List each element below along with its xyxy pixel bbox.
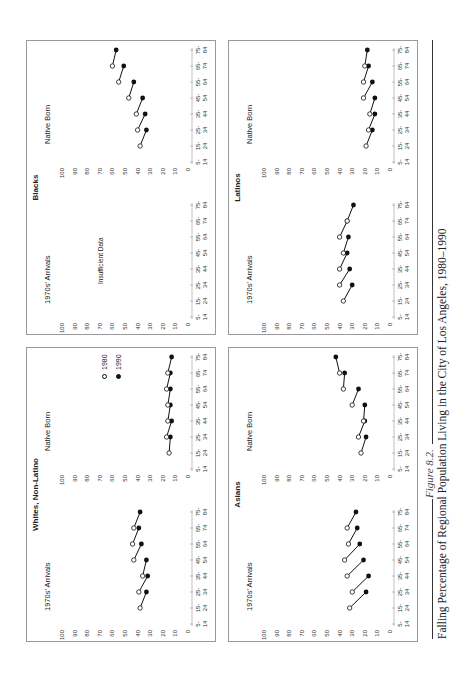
x-tick-label: 34	[404, 281, 410, 288]
y-tick-label: 40	[135, 167, 141, 174]
x-tick-label: 54	[202, 556, 208, 563]
native-born-plot: 01020304050607080901005-1415-2425-3435-4…	[261, 46, 410, 178]
x-tick-label: 64	[404, 540, 410, 547]
point-1980	[127, 96, 131, 100]
x-tick-label: 35-	[195, 572, 201, 581]
y-tick-label: 70	[299, 322, 305, 329]
x-tick-label: 34	[404, 433, 410, 440]
x-tick-label: 64	[202, 233, 208, 240]
point-1990	[347, 267, 352, 272]
y-tick-label: 50	[324, 629, 330, 636]
point-1990	[144, 128, 149, 133]
y-tick-label: 30	[349, 167, 355, 174]
x-tick-label: 55-	[195, 78, 201, 87]
x-tick-label: 45-	[397, 401, 403, 410]
y-tick-label: 0	[387, 474, 393, 478]
point-1990	[361, 558, 366, 563]
x-tick-label: 75-	[195, 353, 201, 362]
y-tick-label: 10	[172, 474, 178, 481]
point-1980	[164, 387, 168, 391]
y-tick-label: 30	[147, 167, 153, 174]
panel-asians: Asians 1970s' Arrivals Native Born 01020…	[228, 347, 418, 642]
x-tick-label: 75-	[195, 201, 201, 210]
point-1980	[134, 112, 138, 116]
legend-label: 1990	[115, 354, 122, 370]
y-tick-label: 70	[299, 167, 305, 174]
arrivals-plot: 01020304050607080901005-1415-2425-3435-4…	[261, 201, 410, 333]
x-tick-label: 84	[404, 201, 410, 208]
x-tick-label: 44	[202, 265, 208, 272]
x-tick-label: 35-	[397, 110, 403, 119]
x-tick-label: 35-	[195, 265, 201, 274]
cohort-line	[340, 269, 350, 285]
panel-latinos: Latinos 1970s' Arrivals Native Born 0102…	[228, 40, 418, 335]
native-born-plot: 01020304050607080901005-1415-2425-3435-4…	[59, 353, 208, 485]
x-tick-label: 34	[404, 588, 410, 595]
y-tick-label: 40	[135, 629, 141, 636]
x-tick-label: 15-	[195, 449, 201, 458]
point-1990	[114, 48, 119, 53]
y-tick-label: 80	[84, 167, 90, 174]
y-tick-label: 50	[324, 474, 330, 481]
y-tick-label: 100	[261, 629, 267, 640]
point-1990	[355, 526, 360, 531]
x-tick-label: 5-	[397, 159, 403, 164]
point-1990	[136, 526, 141, 531]
x-tick-label: 74	[202, 217, 208, 224]
x-tick-label: 55-	[195, 385, 201, 394]
panel-whites: Whites, Non-Latino 1970s' Arrivals Nativ…	[26, 347, 216, 642]
point-1980	[167, 451, 171, 455]
y-tick-label: 0	[185, 322, 191, 326]
x-tick-label: 15-	[195, 297, 201, 306]
legend-item-1990: 1990	[111, 354, 125, 379]
y-tick-label: 0	[185, 167, 191, 171]
x-tick-label: 5-	[397, 466, 403, 471]
x-tick-label: 65-	[397, 369, 403, 378]
y-tick-label: 100	[59, 322, 65, 333]
x-tick-label: 14	[404, 620, 410, 627]
x-tick-label: 54	[202, 401, 208, 408]
point-1990	[145, 574, 150, 579]
x-tick-label: 24	[202, 297, 208, 304]
x-tick-label: 24	[404, 449, 410, 456]
chart-asians: 01020304050607080901005-1415-2425-3435-4…	[229, 348, 417, 641]
x-tick-label: 34	[202, 281, 208, 288]
y-tick-label: 90	[274, 629, 280, 636]
legend: 1980 1990	[97, 354, 125, 379]
y-tick-label: 0	[387, 167, 393, 171]
cohort-line	[348, 528, 357, 544]
x-tick-label: 14	[202, 313, 208, 320]
x-tick-label: 84	[202, 353, 208, 360]
y-tick-label: 30	[147, 474, 153, 481]
y-tick-label: 10	[374, 474, 380, 481]
y-tick-label: 50	[122, 322, 128, 329]
point-1990	[131, 80, 136, 85]
y-tick-label: 80	[84, 322, 90, 329]
y-tick-label: 50	[122, 167, 128, 174]
x-tick-label: 24	[202, 604, 208, 611]
cohort-line	[352, 576, 368, 592]
y-tick-label: 70	[299, 629, 305, 636]
point-1980	[363, 64, 367, 68]
x-tick-label: 55-	[397, 233, 403, 242]
x-tick-label: 54	[202, 249, 208, 256]
x-tick-label: 74	[404, 369, 410, 376]
point-1980	[138, 144, 142, 148]
x-tick-label: 14	[202, 158, 208, 165]
x-tick-label: 75-	[397, 353, 403, 362]
native-born-plot: 01020304050607080901005-1415-2425-3435-4…	[261, 353, 410, 485]
point-1990	[346, 235, 351, 240]
x-tick-label: 44	[202, 572, 208, 579]
figure-label: Figure 8.2.	[423, 449, 435, 498]
arrivals-plot: 01020304050607080901005-1415-2425-3435-4…	[59, 201, 208, 333]
legend-label: 1980	[101, 354, 108, 370]
x-tick-label: 75-	[195, 46, 201, 55]
y-tick-label: 20	[362, 322, 368, 329]
point-1980	[366, 128, 370, 132]
x-tick-label: 34	[202, 588, 208, 595]
x-tick-label: 5-	[195, 466, 201, 471]
cohort-line	[347, 512, 356, 528]
x-tick-label: 44	[404, 110, 410, 117]
point-1990	[121, 64, 126, 69]
point-1990	[351, 203, 356, 208]
